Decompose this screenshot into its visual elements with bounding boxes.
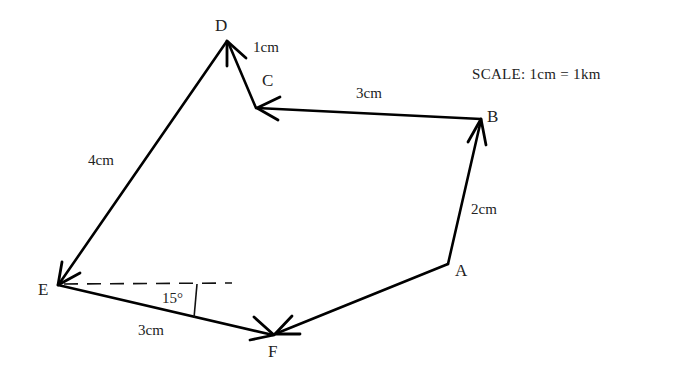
length-label-ab: 2cm <box>471 201 497 217</box>
point-label-d: D <box>215 16 227 35</box>
segment-a-b <box>448 120 481 264</box>
arrowhead-at-f-from-e-icon <box>250 317 274 340</box>
length-label-bc: 3cm <box>356 85 382 101</box>
length-label-de: 4cm <box>88 152 114 168</box>
segment-d-e <box>59 41 227 284</box>
vector-diagram: D C B A E F 1cm 3cm 2cm 4cm 3cm 15° SCAL… <box>0 0 688 379</box>
horizontal-reference-line <box>64 283 232 284</box>
segment-a-f <box>275 264 448 334</box>
angle-marker <box>194 284 197 318</box>
length-label-ef: 3cm <box>138 322 164 338</box>
point-label-a: A <box>455 261 468 280</box>
point-label-b: B <box>487 107 498 126</box>
point-label-c: C <box>262 71 273 90</box>
angle-label: 15° <box>162 290 183 306</box>
scale-label: SCALE: 1cm = 1km <box>472 66 601 82</box>
point-label-f: F <box>268 342 277 361</box>
point-label-e: E <box>38 280 48 299</box>
length-label-cd: 1cm <box>253 39 279 55</box>
segment-b-c <box>257 108 481 119</box>
segment-c-d <box>228 42 256 108</box>
